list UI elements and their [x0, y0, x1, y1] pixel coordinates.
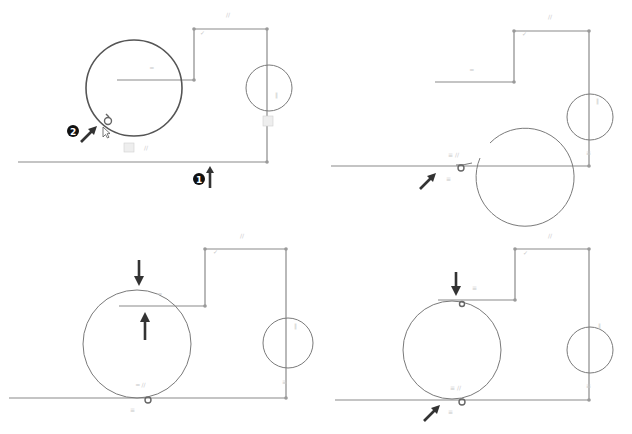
- endpoint[interactable]: [587, 398, 591, 402]
- endpoint[interactable]: [512, 29, 516, 33]
- endpoint[interactable]: [203, 247, 207, 251]
- small-circle[interactable]: [567, 327, 613, 373]
- constraint-glyph-equal: ≡ //: [450, 384, 462, 391]
- endpoint[interactable]: [192, 27, 196, 31]
- panel-step-2: ═ // ✓ ≡ // ≡ ‖ ≡: [331, 13, 613, 226]
- arrow-up-head: [140, 312, 150, 322]
- constraint-glyph-equal: ═: [469, 66, 474, 73]
- constraint-glyph-equal: ≡: [472, 284, 477, 291]
- endpoint[interactable]: [587, 164, 591, 168]
- constraint-glyph-equal: ≡: [586, 149, 591, 156]
- endpoint[interactable]: [513, 247, 517, 251]
- constraint-glyph-perp: ✓: [522, 30, 527, 37]
- large-circle[interactable]: [86, 40, 182, 136]
- constraint-glyph-vertical: ‖: [598, 322, 601, 330]
- constraint-glyph-equal: ≡: [282, 378, 287, 385]
- constraint-glyph-vertical: ‖: [275, 91, 278, 99]
- constraint-glyph-parallel: //: [226, 11, 231, 18]
- constraint-toolbox-icon[interactable]: [263, 116, 273, 126]
- constraint-glyph-parallel: //: [548, 232, 553, 239]
- endpoint[interactable]: [512, 80, 516, 84]
- panel-step-3: ═ // ✓ ═ // ≡ ‖ ≡: [9, 232, 313, 413]
- constraint-glyph-equal: ≡ //: [448, 151, 460, 158]
- constraint-glyph-vertical: ‖: [294, 322, 297, 330]
- endpoint[interactable]: [265, 27, 269, 31]
- constraint-glyph-perp: ✓: [523, 249, 528, 256]
- constraint-glyph-horizontal: ≡: [446, 175, 451, 182]
- endpoint[interactable]: [203, 304, 207, 308]
- endpoint[interactable]: [513, 298, 517, 302]
- small-circle[interactable]: [246, 65, 292, 111]
- constraint-toolbox-icon[interactable]: [124, 143, 134, 152]
- constraint-glyph-equal: ═: [157, 290, 162, 297]
- constraint-glyph-horizontal: ≡: [448, 408, 453, 415]
- tangent-icon: [105, 118, 112, 125]
- tangent-icon: [106, 114, 109, 117]
- constraint-glyph-parallel: //: [240, 232, 245, 239]
- constraint-glyph-vertical: ‖: [596, 97, 599, 105]
- small-circle[interactable]: [263, 318, 313, 368]
- constraint-glyph-horizontal: ≡: [130, 406, 135, 413]
- arrow-down-head: [451, 286, 461, 296]
- panel-step-1: ═ // ✓ ‖ // 2 1: [18, 11, 292, 188]
- constraint-glyph-parallel: //: [548, 13, 553, 20]
- panel-step-4: ≡ // ✓ ≡ // ≡ ‖ ≡: [335, 232, 613, 421]
- endpoint[interactable]: [284, 247, 288, 251]
- endpoint[interactable]: [265, 160, 269, 164]
- endpoint[interactable]: [587, 247, 591, 251]
- constraint-glyph-equal: ≡: [586, 382, 591, 389]
- constraint-glyph-perp: ✓: [213, 248, 218, 255]
- arrow-down-head: [134, 276, 144, 286]
- endpoint[interactable]: [284, 396, 288, 400]
- constraint-glyph-equal: ═: [149, 64, 154, 71]
- constraint-glyph-perp: ✓: [200, 29, 205, 36]
- callout-badge-2-label: 2: [70, 127, 76, 137]
- callout-arrow-1-head: [206, 166, 214, 173]
- constraint-glyph-parallel: //: [144, 144, 149, 151]
- endpoint[interactable]: [192, 78, 196, 82]
- callout-badge-1-label: 1: [196, 175, 202, 185]
- constraint-glyph-equal: ═ //: [135, 381, 147, 388]
- small-circle[interactable]: [567, 94, 613, 140]
- sketch-figure: ═ // ✓ ‖ // 2 1 ═ //: [0, 0, 632, 434]
- endpoint[interactable]: [587, 29, 591, 33]
- large-circle[interactable]: [456, 128, 574, 226]
